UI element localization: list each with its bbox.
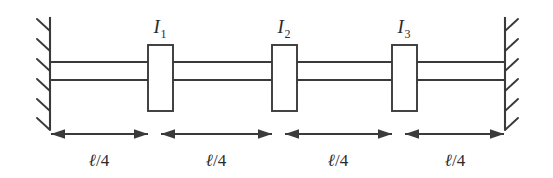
- diagram-canvas: I1 I2 I3 ℓ/4: [0, 0, 553, 178]
- disk-body-I3: [392, 45, 417, 111]
- dimension-label-4-ell: ℓ: [445, 151, 452, 170]
- torsional-shaft-diagram: I1 I2 I3 ℓ/4: [0, 0, 553, 178]
- dimension-label-2: ℓ/4: [206, 151, 227, 170]
- disk-label-I3-sub: 3: [404, 27, 410, 41]
- dimension-label-3: ℓ/4: [328, 151, 349, 170]
- dimension-label-2-ell: ℓ: [206, 151, 213, 170]
- dimension-label-3-rest: /4: [335, 151, 349, 170]
- dimension-label-4: ℓ/4: [445, 151, 466, 170]
- dimension-label-2-rest: /4: [213, 151, 227, 170]
- dimension-label-3-ell: ℓ: [328, 151, 335, 170]
- dimension-label-1: ℓ/4: [89, 151, 110, 170]
- dimension-label-1-ell: ℓ: [89, 151, 96, 170]
- disk-body-I1: [148, 45, 173, 111]
- dimension-label-1-rest: /4: [96, 151, 110, 170]
- disk-label-I1-sub: 1: [160, 27, 166, 41]
- disk-body-I2: [272, 45, 297, 111]
- disk-label-I2-sub: 2: [284, 27, 290, 41]
- dimension-label-4-rest: /4: [452, 151, 466, 170]
